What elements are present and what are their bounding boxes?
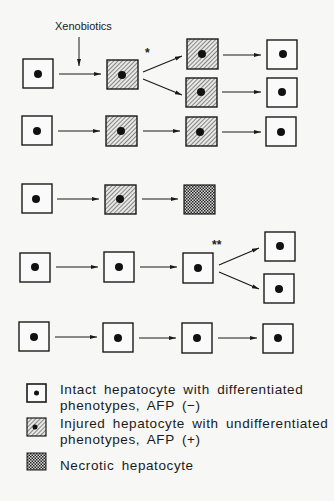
branch-arrow-down-icon — [143, 79, 182, 95]
legend-item-injured-line2: phenotypes, AFP (+) — [60, 432, 201, 447]
intact-hepatocyte-icon — [103, 323, 133, 352]
injured-hepatocyte-icon — [105, 185, 136, 214]
necrotic-hepatocyte-icon — [184, 185, 215, 214]
legend-item-injured-line1: Injured hepatocyte with undifferentiated — [60, 416, 328, 431]
injured-hepatocyte-icon — [106, 116, 137, 146]
row-2 — [22, 116, 296, 146]
intact-hepatocyte-icon — [20, 253, 50, 282]
xenobiotics-label: Xenobiotics — [55, 20, 112, 32]
row-4 — [20, 232, 295, 303]
branch-mark-single: * — [145, 46, 150, 60]
intact-hepatocyte-icon — [267, 40, 297, 69]
intact-hepatocyte-icon — [23, 59, 53, 88]
branch-arrow-up-icon — [219, 248, 259, 265]
intact-hepatocyte-icon — [265, 232, 295, 261]
injured-hepatocyte-icon — [187, 39, 218, 69]
intact-hepatocyte-icon — [263, 324, 293, 353]
intact-hepatocyte-icon — [266, 117, 296, 146]
intact-hepatocyte-icon — [183, 253, 213, 283]
legend-item-intact-line2: phenotypes, AFP (−) — [60, 398, 201, 413]
intact-hepatocyte-icon — [104, 252, 134, 282]
injured-hepatocyte-icon — [186, 117, 217, 146]
necrotic-hepatocyte-icon — [27, 453, 46, 470]
row-3 — [22, 184, 215, 214]
row-5 — [19, 322, 293, 353]
branch-mark-double: ** — [212, 238, 221, 252]
injured-hepatocyte-icon — [186, 78, 217, 107]
legend-item-necrotic-line1: Necrotic hepatocyte — [60, 458, 194, 473]
legend-icons — [27, 384, 46, 470]
intact-hepatocyte-icon — [264, 274, 294, 303]
injured-hepatocyte-icon — [27, 418, 46, 436]
intact-hepatocyte-icon — [267, 78, 297, 107]
row-1 — [23, 37, 297, 107]
intact-hepatocyte-icon — [22, 116, 52, 145]
intact-hepatocyte-icon — [19, 322, 49, 351]
branch-arrow-down-icon — [219, 272, 259, 289]
legend-item-intact-line1: Intact hepatocyte with differentiated — [60, 382, 303, 397]
intact-hepatocyte-icon — [182, 323, 212, 353]
intact-hepatocyte-icon — [27, 384, 46, 402]
intact-hepatocyte-icon — [22, 184, 52, 213]
injured-hepatocyte-icon — [107, 60, 138, 89]
